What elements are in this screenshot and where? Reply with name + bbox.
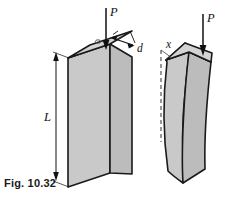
buckled-column-side-face — [182, 52, 211, 183]
length-arrow-head-top-icon — [53, 52, 59, 61]
straight-column-side-face — [110, 44, 132, 174]
eccentricity-edge-tick — [130, 31, 135, 43]
straight-column-group — [68, 31, 132, 187]
length-label: L — [43, 110, 51, 124]
load-arrow-right-group: P — [200, 11, 215, 56]
deflection-axis-label: x — [165, 38, 172, 50]
length-dimension-group: L — [43, 52, 69, 187]
buckled-column-group — [164, 43, 212, 183]
load-label-right: P — [206, 11, 215, 25]
eccentricity-extension-line — [113, 31, 118, 35]
load-label-left: P — [109, 5, 118, 19]
figure-container: P d L — [0, 0, 235, 208]
eccentricity-label: d — [137, 42, 143, 54]
deflection-axis-leader — [161, 50, 172, 58]
straight-column-front-face — [68, 44, 110, 187]
figure-caption: Fig. 10.32 — [4, 177, 56, 189]
